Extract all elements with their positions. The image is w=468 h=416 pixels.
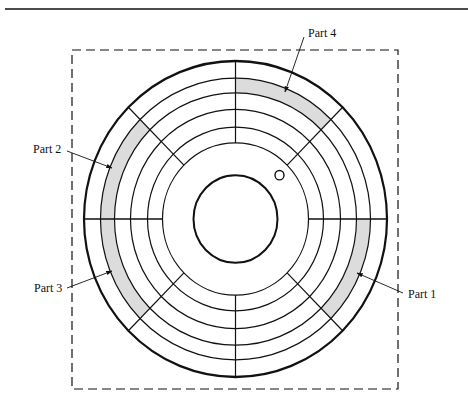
leader-part-1 <box>357 273 403 293</box>
leader-part-2 <box>67 151 112 168</box>
label-part-3: Part 3 <box>34 282 62 294</box>
leader-part-4 <box>285 37 304 92</box>
disk-diagram <box>0 0 468 416</box>
label-part-4: Part 4 <box>308 27 336 39</box>
platter <box>84 61 387 377</box>
label-part-1: Part 1 <box>408 288 436 300</box>
leader-part-3 <box>67 271 112 288</box>
spindle-hub <box>194 175 278 263</box>
label-part-2: Part 2 <box>33 143 61 155</box>
index-hole <box>275 171 284 180</box>
track-ring-5 <box>163 143 309 295</box>
sector-dividers <box>84 61 387 377</box>
